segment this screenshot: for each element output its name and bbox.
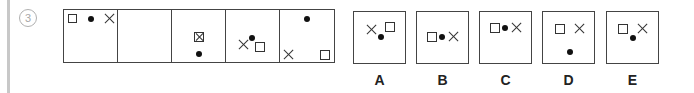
dot-icon (630, 35, 636, 41)
dot-icon (567, 49, 573, 55)
dot-icon (502, 25, 508, 31)
square-icon (490, 23, 500, 33)
x-icon (282, 49, 293, 60)
sequence-cell-5 (280, 10, 334, 62)
option-d[interactable] (542, 11, 595, 64)
dot-icon (378, 34, 384, 40)
x-icon (103, 13, 114, 24)
square-icon (320, 50, 330, 60)
option-e[interactable] (606, 11, 659, 64)
option-c[interactable] (479, 11, 532, 64)
dot-icon (88, 16, 94, 22)
option-b[interactable] (416, 11, 469, 64)
x-icon (365, 24, 376, 35)
sequence-cell-3 (172, 10, 226, 62)
option-a-label: A (353, 72, 406, 88)
dot-icon (439, 34, 445, 40)
option-a[interactable] (353, 11, 406, 64)
option-e-label: E (606, 72, 659, 88)
dot-icon (249, 35, 255, 41)
x-icon (510, 22, 521, 33)
dot-icon (196, 51, 202, 57)
option-c-label: C (479, 72, 532, 88)
sequence-cell-4 (226, 10, 280, 62)
left-margin-rule (7, 0, 10, 93)
x-icon (636, 23, 647, 34)
square-icon (68, 14, 77, 23)
square-icon (255, 42, 265, 52)
dot-icon (304, 16, 310, 22)
sequence-cell-1 (64, 10, 118, 62)
square-x-icon (194, 32, 204, 42)
option-d-label: D (542, 72, 595, 88)
option-b-label: B (416, 72, 469, 88)
x-icon (573, 23, 584, 34)
sequence-strip (63, 9, 335, 63)
square-icon (618, 24, 628, 34)
question-number: 3 (19, 9, 37, 27)
square-icon (427, 32, 437, 42)
sequence-cell-2 (118, 10, 172, 62)
square-icon (555, 24, 565, 34)
x-icon (447, 31, 458, 42)
square-icon (385, 22, 395, 32)
x-icon (237, 39, 248, 50)
